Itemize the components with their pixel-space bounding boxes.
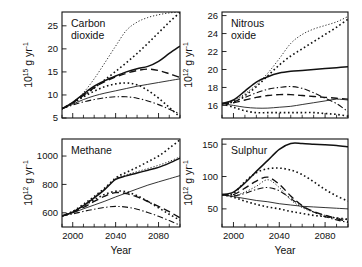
- series-line-a1t: [62, 83, 180, 117]
- panel-methane: 6008001000200020402080Year1012 g yr-1Met…: [22, 139, 180, 256]
- y-tick-label: 5: [53, 112, 58, 123]
- series-line-b1t: [222, 195, 348, 220]
- y-tick-label: 26: [207, 10, 218, 21]
- series-line-b2: [222, 87, 348, 112]
- panel-nitrous-oxide: 1618202224261012 g yr-1Nitrousoxide: [182, 10, 348, 118]
- series-line-b2: [62, 69, 180, 109]
- y-tick-label: 10: [47, 89, 58, 100]
- y-axis-title: 1015 g yr-1: [22, 42, 34, 88]
- y-tick-label: 600: [42, 207, 58, 218]
- series-line-a1b: [222, 67, 348, 104]
- y-tick-label: 15: [47, 66, 58, 77]
- x-axis-title: Year: [110, 244, 132, 256]
- y-axis-title: 1012 g yr-1: [182, 42, 194, 88]
- x-tick-label: 2000: [62, 230, 83, 241]
- series-line-b1t: [222, 104, 348, 117]
- panel-title: Nitrousoxide: [231, 17, 264, 41]
- panel-carbon-dioxide: 5101520251015 g yr-1Carbondioxide: [22, 12, 180, 123]
- series-line-b1: [222, 95, 348, 104]
- x-tick-label: 2080: [148, 230, 169, 241]
- y-axis-title: 1012 g yr-1: [182, 160, 194, 206]
- y-tick-label: 1000: [37, 150, 58, 161]
- y-tick-label: 18: [207, 82, 218, 93]
- y-tick-label: 100: [202, 171, 218, 182]
- x-tick-label: 2040: [269, 230, 290, 241]
- y-axis-title: 1012 g yr-1: [22, 160, 34, 206]
- x-tick-label: 2080: [315, 230, 336, 241]
- panel-title: Sulphur: [231, 144, 268, 156]
- series-line-b2: [222, 177, 348, 222]
- series-line-a2: [222, 168, 348, 201]
- y-tick-label: 24: [207, 28, 218, 39]
- panel-sulphur: 50100150200020402080Year1012 g yr-1Sulph…: [182, 139, 348, 256]
- y-tick-label: 22: [207, 46, 218, 57]
- y-tick-label: 16: [207, 100, 218, 111]
- series-line-a1t: [222, 99, 348, 108]
- series-line-b1t: [62, 97, 180, 114]
- panel-title: Methane: [71, 144, 112, 156]
- series-line-a1b: [62, 158, 180, 216]
- chart-canvas: 5101520251015 g yr-1Carbondioxide1618202…: [0, 0, 362, 267]
- x-tick-label: 2040: [105, 230, 126, 241]
- series-line-b1: [62, 191, 180, 220]
- series-line-a1t: [62, 193, 180, 218]
- panel-title: Carbondioxide: [71, 17, 106, 41]
- x-tick-label: 2000: [223, 230, 244, 241]
- y-tick-label: 150: [202, 139, 218, 150]
- emissions-scenarios-figure: 5101520251015 g yr-1Carbondioxide1618202…: [0, 0, 362, 267]
- y-tick-label: 20: [47, 43, 58, 54]
- y-tick-label: 25: [47, 20, 58, 31]
- y-tick-label: 800: [42, 179, 58, 190]
- series-line-a1b: [62, 46, 180, 109]
- x-axis-title: Year: [274, 244, 296, 256]
- y-tick-label: 20: [207, 64, 218, 75]
- series-line-b1: [62, 79, 180, 109]
- series-line-a1t: [222, 195, 348, 209]
- y-tick-label: 50: [207, 203, 218, 214]
